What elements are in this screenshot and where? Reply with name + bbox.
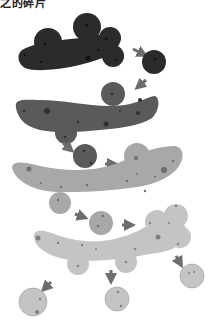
stage-1-body xyxy=(18,13,124,70)
stage-2-fragment xyxy=(73,144,97,168)
stage-4-fragment-left xyxy=(19,288,47,316)
stage-3-body xyxy=(12,143,183,214)
arrow-icon xyxy=(45,282,51,288)
stage-4-fragment-center xyxy=(105,287,129,311)
arrow-icon xyxy=(75,214,83,217)
arrow-icon xyxy=(176,256,180,263)
stage-3-fragment xyxy=(89,211,113,235)
stage-4-fragment-right xyxy=(180,264,204,288)
fragmentation-diagram xyxy=(0,0,211,322)
stage-4-body xyxy=(34,204,191,275)
arrow-icon xyxy=(133,49,143,54)
arrow-icon xyxy=(139,80,146,86)
stage-1-fragment xyxy=(142,50,166,74)
